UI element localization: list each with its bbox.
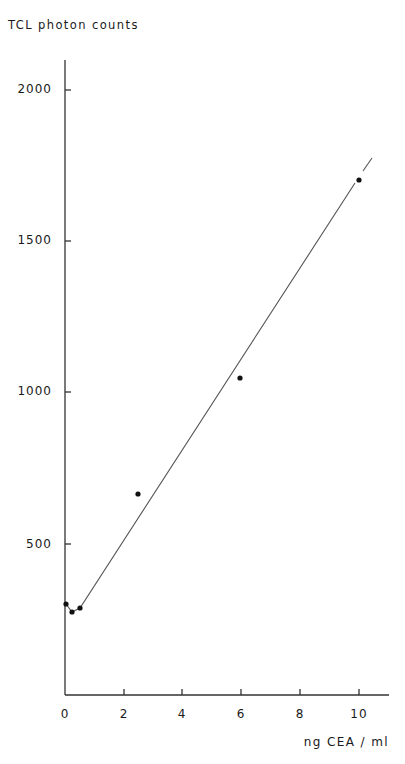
plot-area <box>0 0 405 764</box>
fit-line <box>66 183 355 612</box>
data-point <box>135 491 140 496</box>
data-point <box>237 375 242 380</box>
data-point <box>63 601 68 606</box>
x-ticks <box>124 689 359 695</box>
y-ticks <box>65 90 71 544</box>
data-point <box>356 177 361 182</box>
fit-line-extension <box>363 158 372 171</box>
data-point <box>77 605 82 610</box>
data-point <box>69 609 74 614</box>
data-points <box>63 177 361 614</box>
